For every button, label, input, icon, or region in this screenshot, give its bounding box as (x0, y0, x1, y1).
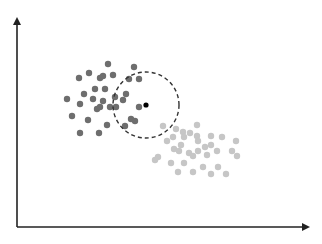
data-point (195, 148, 201, 154)
data-point (123, 91, 129, 97)
data-point (120, 97, 126, 103)
data-point (181, 160, 187, 166)
data-point (85, 117, 91, 123)
data-point (181, 134, 187, 140)
data-point (77, 130, 83, 136)
data-point (208, 142, 214, 148)
data-point (190, 169, 196, 175)
data-point (92, 86, 98, 92)
data-point (223, 171, 229, 177)
data-point (81, 91, 87, 97)
data-point (100, 73, 106, 79)
data-point (86, 70, 92, 76)
data-point (90, 96, 96, 102)
data-point (100, 98, 106, 104)
data-point (64, 96, 70, 102)
data-point (195, 138, 201, 144)
data-point (136, 104, 142, 110)
data-point (200, 164, 206, 170)
data-point (190, 153, 196, 159)
data-point (110, 72, 116, 78)
data-point (219, 134, 225, 140)
series-class-b (152, 122, 240, 177)
data-point (164, 138, 170, 144)
data-point (132, 118, 138, 124)
data-point (152, 157, 158, 163)
data-point (136, 76, 142, 82)
data-point (168, 160, 174, 166)
data-point (233, 138, 239, 144)
data-point (69, 113, 75, 119)
data-point (160, 123, 166, 129)
data-point (208, 171, 214, 177)
data-point (178, 142, 184, 148)
data-point (215, 164, 221, 170)
series-class-a (64, 61, 142, 136)
data-point (173, 126, 179, 132)
data-point (107, 104, 113, 110)
data-point (96, 130, 102, 136)
data-point (229, 148, 235, 154)
data-point (105, 61, 111, 67)
query-point (143, 102, 148, 107)
data-point (194, 122, 200, 128)
data-point (214, 148, 220, 154)
data-point (187, 130, 193, 136)
data-point (208, 133, 214, 139)
data-point (204, 152, 210, 158)
data-point (104, 122, 110, 128)
data-point (176, 148, 182, 154)
data-point (76, 75, 82, 81)
data-point (97, 104, 103, 110)
data-point (234, 153, 240, 159)
data-point (202, 144, 208, 150)
data-point (77, 101, 83, 107)
data-point (175, 169, 181, 175)
data-points (64, 61, 240, 177)
knn-scatter-diagram (0, 0, 322, 244)
data-point (170, 134, 176, 140)
data-point (131, 64, 137, 70)
data-point (102, 86, 108, 92)
